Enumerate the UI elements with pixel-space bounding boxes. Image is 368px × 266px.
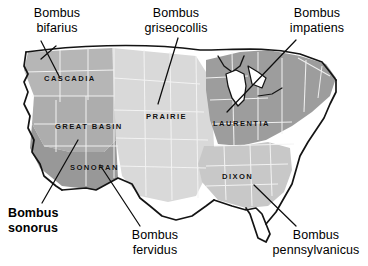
- bombus-region-map-figure: CASCADIA GREAT BASIN SONORAN PRAIRIE LAU…: [0, 0, 368, 266]
- region-label-laurentia: LAURENTIA: [213, 119, 270, 128]
- region-label-dixon: DIXON: [222, 172, 253, 181]
- region-label-cascadia: CASCADIA: [44, 74, 96, 83]
- region-prairie: [112, 48, 214, 202]
- species-label-bombus-sonorus: Bombus sonorus: [8, 206, 100, 236]
- region-laurentia: [206, 50, 336, 146]
- species-label-bombus-bifarius: Bombus bifarius: [14, 6, 100, 36]
- species-label-bombus-fervidus: Bombus fervidus: [112, 228, 198, 258]
- region-label-prairie: PRAIRIE: [146, 112, 187, 121]
- region-label-great-basin: GREAT BASIN: [55, 122, 123, 131]
- species-label-bombus-pennsylvanicus: Bombus pennsylvanicus: [266, 228, 366, 258]
- region-label-sonoran: SONORAN: [70, 163, 119, 172]
- species-label-bombus-griseocollis: Bombus griseocollis: [128, 6, 224, 36]
- species-label-bombus-impatiens: Bombus impatiens: [274, 6, 360, 36]
